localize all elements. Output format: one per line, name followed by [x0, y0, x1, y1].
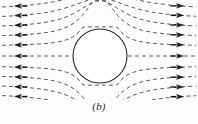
flow-arrowhead — [15, 43, 22, 48]
streamline-field-plot — [0, 0, 198, 100]
flow-arrowhead — [15, 33, 22, 38]
flow-arrowhead — [15, 54, 22, 59]
flow-arrowhead — [15, 65, 22, 70]
flow-arrowhead — [15, 13, 22, 18]
flow-arrowhead — [177, 94, 184, 99]
flow-arrowhead — [15, 4, 22, 9]
flow-arrowhead — [15, 75, 22, 80]
flow-arrowhead — [15, 23, 22, 28]
flow-arrowhead — [15, 85, 22, 90]
figure-caption: (b) — [0, 100, 198, 112]
cylinder-circle — [73, 29, 127, 83]
streamline — [2, 0, 196, 16]
field-line-figure: (b) — [0, 0, 198, 124]
flow-arrowhead — [177, 13, 184, 18]
flow-arrowhead — [15, 94, 22, 99]
